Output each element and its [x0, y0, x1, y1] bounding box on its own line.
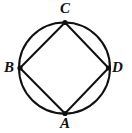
vertex-label-b: B [4, 60, 14, 75]
vertex-label-c: C [60, 1, 70, 16]
edge-BC [20, 23, 65, 69]
vertex-dot-D [106, 65, 111, 70]
vertex-dot-C [62, 20, 67, 25]
geometry-figure: C B D A [0, 0, 132, 133]
circumscribed-circle [19, 23, 110, 114]
vertex-label-a: A [60, 116, 70, 131]
edge-AB [20, 68, 65, 114]
vertex-dot-B [17, 65, 22, 70]
vertex-label-d: D [112, 60, 123, 75]
